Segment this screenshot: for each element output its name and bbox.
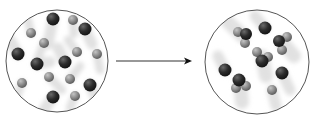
light-atom-icon [68,15,78,25]
before-container [6,10,108,112]
light-atom-icon [39,38,49,48]
dark-atom-icon [12,48,25,61]
atom [219,64,232,77]
light-atom-icon [26,28,36,38]
after-container [205,10,309,114]
light-atom-icon [267,85,277,95]
atom [276,67,289,80]
dark-atom-icon [79,23,92,36]
dark-atom-icon [47,91,60,104]
light-atom-icon [17,78,27,88]
reaction-arrow [116,58,192,65]
dark-atom-icon [219,64,232,77]
atom [267,85,277,95]
dark-atom-icon [273,35,285,47]
dark-atom-icon [84,79,97,92]
light-atom-icon [70,91,80,101]
dark-atom-icon [240,28,252,40]
light-atom-icon [92,49,102,59]
dark-atom-icon [256,55,269,68]
atom [259,22,272,35]
reaction-diagram [0,0,314,122]
dark-atom-icon [233,74,246,87]
dark-atom-icon [47,13,60,26]
dark-atom-icon [31,58,44,71]
dark-atom-icon [259,22,272,35]
light-atom-icon [72,47,82,57]
light-atom-icon [65,74,75,84]
dark-atom-icon [276,67,289,80]
dark-atom-icon [59,56,72,69]
light-atom-icon [44,72,54,82]
